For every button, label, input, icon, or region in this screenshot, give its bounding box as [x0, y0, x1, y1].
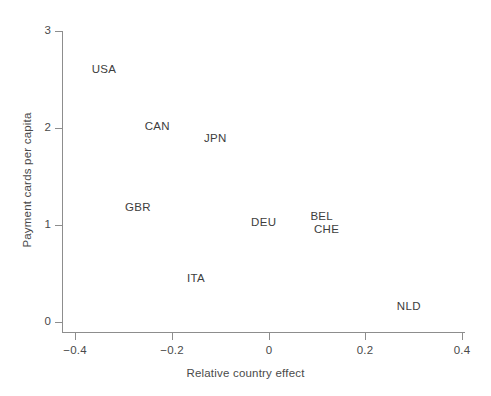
x-tick-mark [269, 333, 270, 340]
x-axis-line [62, 332, 465, 333]
y-tick-mark [55, 128, 62, 129]
scatter-plot-figure: 0123 −0.4−0.200.20.4 USACANJPNGBRITADEUB… [0, 0, 491, 396]
data-point-label-usa: USA [92, 63, 117, 75]
data-point-label-bel: BEL [310, 210, 333, 222]
y-tick-label: 3 [29, 24, 51, 36]
x-tick-label: 0 [247, 344, 291, 356]
y-tick-label: 0 [29, 315, 51, 327]
x-tick-mark [365, 333, 366, 340]
y-tick-mark [55, 31, 62, 32]
data-point-label-jpn: JPN [204, 132, 227, 144]
x-tick-mark [462, 333, 463, 340]
x-axis-title: Relative country effect [0, 367, 491, 379]
x-tick-label: −0.2 [150, 344, 194, 356]
x-tick-label: −0.4 [53, 344, 97, 356]
x-tick-label: 0.4 [440, 344, 484, 356]
y-axis-line [62, 31, 63, 333]
data-point-label-can: CAN [145, 120, 170, 132]
data-point-label-ita: ITA [187, 272, 205, 284]
x-tick-mark [75, 333, 76, 340]
data-point-label-nld: NLD [397, 300, 421, 312]
y-axis-title: Payment cards per capita [21, 100, 33, 260]
x-tick-mark [172, 333, 173, 340]
y-tick-mark [55, 322, 62, 323]
data-point-label-deu: DEU [251, 216, 276, 228]
x-tick-label: 0.2 [343, 344, 387, 356]
data-point-label-che: CHE [314, 223, 339, 235]
y-tick-mark [55, 225, 62, 226]
data-point-label-gbr: GBR [125, 201, 151, 213]
